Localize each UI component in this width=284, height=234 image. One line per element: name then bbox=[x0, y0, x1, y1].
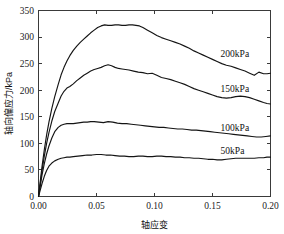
y-tick-label: 200 bbox=[20, 86, 35, 96]
triaxial-stress-strain-chart: 0501001502002503003500.000.050.100.150.2… bbox=[0, 0, 284, 234]
x-tick-label: 0.00 bbox=[30, 201, 47, 211]
x-axis-title: 轴应变 bbox=[141, 219, 168, 230]
x-tick-label: 0.10 bbox=[146, 201, 163, 211]
tick-labels-layer: 0501001502002503003500.000.050.100.150.2… bbox=[20, 6, 279, 211]
series-label-50kpa: 50kPa bbox=[221, 146, 246, 156]
y-axis-title: 轴向偏应力/kPa bbox=[3, 72, 14, 135]
x-tick-label: 0.05 bbox=[88, 201, 105, 211]
series-curve-50kpa bbox=[39, 155, 271, 197]
y-tick-label: 350 bbox=[20, 6, 35, 16]
axis-ticks-layer bbox=[39, 11, 271, 197]
x-tick-label: 0.15 bbox=[204, 201, 221, 211]
series-label-200kpa: 200kPa bbox=[221, 49, 250, 59]
y-tick-label: 250 bbox=[20, 59, 35, 69]
axis-frame bbox=[39, 11, 271, 197]
y-tick-label: 150 bbox=[20, 112, 35, 122]
axis-titles-layer: 轴应变轴向偏应力/kPa bbox=[3, 72, 169, 230]
series-label-150kpa: 150kPa bbox=[221, 84, 250, 94]
y-tick-label: 300 bbox=[20, 32, 35, 42]
y-tick-label: 100 bbox=[20, 139, 35, 149]
plot-frame bbox=[39, 11, 271, 197]
x-tick-label: 0.20 bbox=[262, 201, 279, 211]
figure-container: 0501001502002503003500.000.050.100.150.2… bbox=[0, 0, 284, 234]
y-tick-label: 50 bbox=[25, 165, 35, 175]
series-label-100kpa: 100kPa bbox=[221, 123, 250, 133]
